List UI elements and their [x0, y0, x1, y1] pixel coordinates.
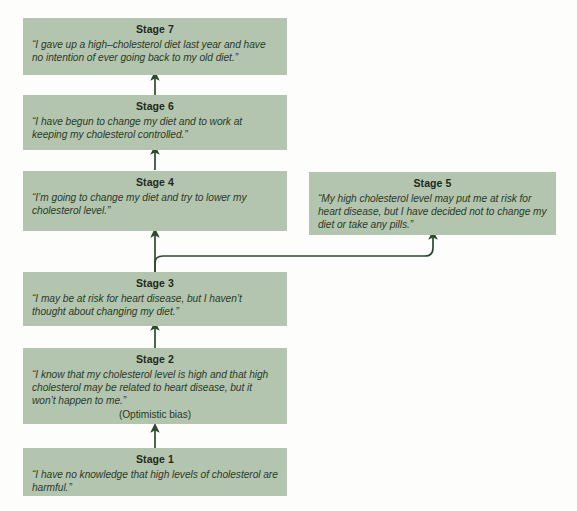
stage-title-stage-1: Stage 1: [32, 453, 278, 466]
stage-box-stage-6[interactable]: Stage 6 “I have begun to change my diet …: [23, 95, 287, 150]
stage-quote-stage-1: “I have no knowledge that high levels of…: [32, 468, 278, 494]
stage-quote-stage-2: “I know that my cholesterol level is hig…: [32, 368, 278, 408]
connector-layer: [0, 0, 577, 511]
stage-box-stage-7[interactable]: Stage 7 “I gave up a high–cholesterol di…: [23, 18, 287, 75]
stage-quote-stage-6: “I have begun to change my diet and to w…: [32, 115, 278, 141]
stage-box-stage-1[interactable]: Stage 1 “I have no knowledge that high l…: [23, 448, 287, 496]
stage-box-stage-3[interactable]: Stage 3 “I may be at risk for heart dise…: [23, 272, 287, 326]
stage-title-stage-3: Stage 3: [32, 277, 278, 290]
stage-box-stage-2[interactable]: Stage 2 “I know that my cholesterol leve…: [23, 348, 287, 424]
stage-note-stage-2: (Optimistic bias): [32, 408, 278, 421]
stage-title-stage-7: Stage 7: [32, 23, 278, 36]
stage-box-stage-4[interactable]: Stage 4 “I’m going to change my diet and…: [23, 171, 287, 231]
stage-title-stage-5: Stage 5: [318, 177, 547, 190]
stage-box-stage-5[interactable]: Stage 5 “My high cholesterol level may p…: [309, 172, 556, 235]
stage-quote-stage-5: “My high cholesterol level may put me at…: [318, 192, 547, 232]
flowchart-diagram: Stage 7 “I gave up a high–cholesterol di…: [0, 0, 577, 511]
stage-title-stage-2: Stage 2: [32, 353, 278, 366]
stage-quote-stage-3: “I may be at risk for heart disease, but…: [32, 292, 278, 318]
stage-quote-stage-4: “I’m going to change my diet and try to …: [32, 191, 278, 217]
arrow-stage3-to-stage5: [155, 235, 433, 272]
stage-title-stage-4: Stage 4: [32, 176, 278, 189]
stage-quote-stage-7: “I gave up a high–cholesterol diet last …: [32, 38, 278, 64]
stage-title-stage-6: Stage 6: [32, 100, 278, 113]
